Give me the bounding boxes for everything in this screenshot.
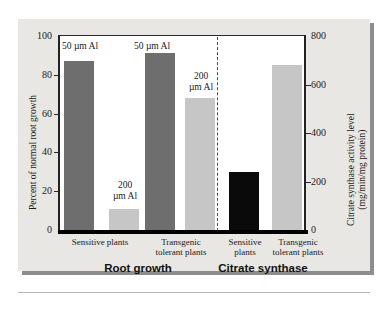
axis-tick-mark-right bbox=[306, 182, 311, 183]
bar-annotation-line1: 200 bbox=[118, 180, 132, 190]
y-axis-title-right-line1: Citrate synthase activity level bbox=[346, 113, 356, 226]
bar-annotation: 200µm Al bbox=[175, 71, 227, 92]
axis-tick-mark-left bbox=[54, 152, 59, 153]
category-label-line2: tolerant plants bbox=[262, 247, 334, 257]
axis-tick-label-right: 200 bbox=[311, 177, 341, 187]
bar-annotation: 200µm Al bbox=[99, 180, 151, 201]
category-label-line1: Transgenic bbox=[161, 237, 201, 247]
category-label: Sensitive plants bbox=[61, 237, 139, 247]
axis-baseline bbox=[58, 230, 308, 234]
bar bbox=[185, 98, 215, 230]
bar bbox=[109, 209, 139, 230]
category-label-line2: tolerant plants bbox=[145, 247, 217, 257]
y-axis-title-right-line2: (mg/min/mg protein) bbox=[357, 113, 368, 226]
axis-tick-label-left: 0 bbox=[22, 225, 52, 235]
bar-annotation-line2: µm Al bbox=[175, 82, 227, 93]
axis-tick-mark-right bbox=[306, 133, 311, 134]
bar bbox=[64, 61, 94, 230]
category-label-line1: Sensitive bbox=[229, 237, 262, 247]
axis-tick-label-left: 100 bbox=[22, 31, 52, 41]
bar-annotation-line1: 200 bbox=[194, 71, 208, 81]
bar bbox=[272, 65, 302, 230]
category-label: Transgenictolerant plants bbox=[145, 237, 217, 257]
axis-tick-mark-right bbox=[306, 85, 311, 86]
bar-annotation-line1: 50 µm Al bbox=[62, 41, 98, 51]
axis-tick-label-right: 0 bbox=[311, 225, 341, 235]
bar bbox=[145, 53, 175, 230]
bar-annotation: 50 µm Al bbox=[134, 41, 194, 52]
axis-tick-label-right: 800 bbox=[311, 31, 341, 41]
page-divider-rule bbox=[18, 292, 370, 293]
category-label: Transgenictolerant plants bbox=[262, 237, 334, 257]
group-title-root-growth: Root growth bbox=[58, 262, 218, 275]
bar-annotation: 50 µm Al bbox=[62, 41, 122, 52]
axis-tick-label-right: 600 bbox=[311, 80, 341, 90]
axis-tick-label-left: 80 bbox=[22, 70, 52, 80]
bar bbox=[229, 172, 259, 230]
y-axis-title-right: Citrate synthase activity level (mg/min/… bbox=[346, 113, 368, 226]
axis-tick-label-right: 400 bbox=[311, 128, 341, 138]
category-label-line1: Transgenic bbox=[278, 237, 318, 247]
bars-layer bbox=[59, 36, 305, 230]
axis-tick-mark-left bbox=[54, 75, 59, 76]
axis-tick-mark-left bbox=[54, 191, 59, 192]
y-axis-title-left: Percent of normal root growth bbox=[28, 95, 39, 210]
group-title-citrate-synthase: Citrate synthase bbox=[218, 262, 308, 275]
axis-tick-mark-left bbox=[54, 114, 59, 115]
bar-annotation-line1: 50 µm Al bbox=[134, 41, 170, 51]
category-label-line1: Sensitive plants bbox=[72, 237, 129, 247]
bar-annotation-line2: µm Al bbox=[99, 191, 151, 202]
